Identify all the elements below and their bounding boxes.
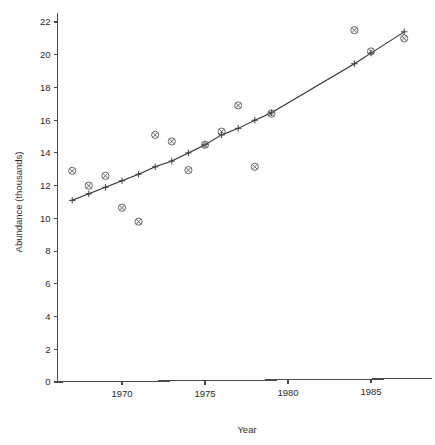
fitted-plus-marker <box>169 158 175 164</box>
x-axis-line <box>58 379 433 383</box>
y-tick-label: 6 <box>45 278 50 289</box>
y-tick-label: 20 <box>40 49 51 60</box>
x-tick-label: 1970 <box>111 388 132 399</box>
fitted-plus-marker <box>252 117 258 123</box>
fitted-plus-marker <box>401 29 407 35</box>
y-tick-label: 14 <box>40 147 51 158</box>
fitted-plus-marker <box>351 61 357 67</box>
x-tick-label: 1980 <box>277 387 298 398</box>
fitted-plus-marker <box>102 184 108 190</box>
y-axis: 0246810121416182022 <box>40 13 58 387</box>
fitted-plus-marker <box>86 191 92 197</box>
y-tick-label: 16 <box>40 115 51 126</box>
fitted-line-path <box>72 32 404 201</box>
x-axis-title: Year <box>237 424 256 435</box>
observed-point-marker: 1973: 14.7 <box>168 138 175 145</box>
fitted-plus-marker <box>235 125 241 131</box>
x-tick-label: 1975 <box>194 388 215 399</box>
observed-point-marker: 1987: 21 <box>401 35 408 42</box>
y-tick-label: 2 <box>45 344 50 355</box>
y-tick-label: 10 <box>40 213 51 224</box>
y-tick-label: 22 <box>40 16 51 27</box>
y-tick-label: 4 <box>45 311 50 322</box>
observed-point-marker: 1978: 13.15 <box>251 163 258 170</box>
observed-point-marker: 1970: 10.65 <box>118 204 125 211</box>
y-tick-label: 18 <box>40 82 51 93</box>
observed-point-marker: 1967: 12.9 <box>69 167 76 174</box>
abundance-year-scatter-chart: 0246810121416182022 1970197519801985 196… <box>0 0 435 445</box>
x-axis: 1970197519801985 <box>58 379 433 400</box>
fitted-plus-marker <box>152 164 158 170</box>
observed-point-marker: 1977: 16.9 <box>235 102 242 109</box>
fitted-plus-marker <box>69 197 75 203</box>
fitted-plus-marker <box>135 171 141 177</box>
y-axis-title: Abundance (thousands) <box>13 152 24 253</box>
fitted-plus-marker <box>185 150 191 156</box>
observed-point-marker: 1984: 21.5 <box>351 27 358 34</box>
x-tick-label: 1985 <box>360 386 381 397</box>
observed-point-marker: 1971: 9.8 <box>135 218 142 225</box>
observed-point-marker: 1974: 12.95 <box>185 166 192 173</box>
fitted-trend-line <box>72 32 404 201</box>
fitted-plus-marker <box>119 178 125 184</box>
chart-canvas: 0246810121416182022 1970197519801985 196… <box>0 0 435 445</box>
observed-point-marker: 1969: 12.6 <box>102 172 109 179</box>
y-tick-label: 0 <box>45 376 50 387</box>
observed-point-marker: 1972: 15.1 <box>152 131 159 138</box>
observed-point-marker: 1968: 12 <box>85 182 92 189</box>
fitted-value-markers <box>69 29 407 204</box>
y-tick-label: 8 <box>45 245 50 256</box>
y-tick-label: 12 <box>40 180 51 191</box>
